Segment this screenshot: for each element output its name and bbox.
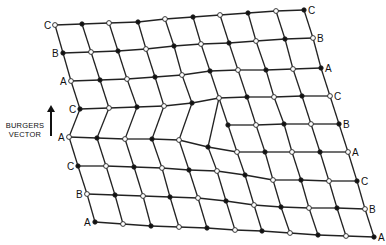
- left-plane-label: C: [44, 20, 51, 31]
- left-plane-label: A: [58, 132, 65, 143]
- bond-line: [256, 41, 266, 70]
- filled-atom-icon: [78, 107, 82, 111]
- bond-line: [109, 107, 137, 108]
- bond-line: [245, 175, 254, 205]
- bond-line: [248, 11, 276, 13]
- bond-line: [118, 49, 146, 51]
- bond-line: [274, 97, 284, 124]
- bond-line: [179, 140, 189, 170]
- bond-line: [248, 13, 256, 41]
- bond-line: [238, 70, 247, 97]
- bond-line: [134, 167, 162, 168]
- bond-line: [256, 124, 284, 125]
- bond-line: [301, 180, 309, 208]
- filled-atom-icon: [319, 66, 323, 70]
- bond-line: [151, 226, 179, 227]
- bond-line: [115, 195, 143, 196]
- bond-line: [146, 49, 155, 77]
- left-plane-label: A: [60, 76, 67, 87]
- bond-line: [266, 70, 274, 97]
- bond-line: [100, 80, 109, 108]
- bond-line: [329, 181, 337, 208]
- bond-line: [301, 180, 329, 181]
- open-atom-icon: [69, 79, 74, 84]
- open-atom-icon: [233, 228, 238, 233]
- filled-atom-icon: [372, 235, 376, 239]
- filled-atom-icon: [260, 229, 264, 233]
- filled-atom-icon: [318, 150, 322, 154]
- filled-atom-icon: [80, 22, 84, 26]
- open-atom-icon: [196, 196, 201, 201]
- filled-atom-icon: [263, 150, 267, 154]
- bond-line: [170, 197, 198, 198]
- bond-line: [219, 97, 247, 98]
- bond-line: [162, 168, 189, 170]
- bond-line: [82, 24, 91, 52]
- bond-line: [265, 152, 273, 180]
- right-plane-label: B: [317, 33, 324, 44]
- open-atom-icon: [89, 50, 94, 55]
- filled-atom-icon: [172, 44, 176, 48]
- left-plane-label: C: [67, 161, 74, 172]
- open-atom-icon: [125, 77, 130, 82]
- bond-line: [87, 194, 115, 195]
- bond-line: [97, 138, 106, 166]
- open-atom-icon: [236, 68, 241, 73]
- filled-atom-icon: [116, 49, 120, 53]
- bond-line: [293, 69, 302, 96]
- bond-line: [123, 224, 151, 226]
- open-atom-icon: [144, 47, 149, 52]
- filled-atom-icon: [227, 41, 231, 45]
- bond-line: [245, 175, 273, 180]
- filled-atom-icon: [208, 69, 212, 73]
- bond-line: [256, 39, 285, 41]
- open-atom-icon: [271, 178, 276, 183]
- bond-line: [146, 46, 174, 49]
- bond-line: [276, 10, 304, 11]
- bond-line: [192, 98, 219, 103]
- bond-line: [320, 152, 329, 181]
- open-atom-icon: [141, 194, 146, 199]
- bond-line: [229, 43, 238, 70]
- bond-line: [235, 230, 262, 231]
- left-plane-label: C: [69, 104, 76, 115]
- open-atom-icon: [160, 166, 165, 171]
- filled-atom-icon: [132, 165, 136, 169]
- bond-line: [182, 71, 210, 75]
- left-plane-label: B: [76, 189, 83, 200]
- bond-line: [152, 139, 162, 168]
- bond-line: [152, 106, 164, 139]
- bond-line: [182, 75, 192, 103]
- bond-line: [109, 23, 118, 51]
- bond-line: [228, 125, 237, 152]
- bond-line: [143, 196, 170, 197]
- bond-line: [164, 103, 192, 106]
- filled-atom-icon: [335, 206, 339, 210]
- open-atom-icon: [291, 67, 296, 72]
- bond-line: [201, 44, 210, 71]
- open-atom-icon: [162, 104, 167, 109]
- bond-line: [290, 233, 318, 235]
- bond-line: [127, 79, 137, 107]
- bond-line: [226, 201, 235, 230]
- open-atom-icon: [252, 203, 257, 208]
- bond-line: [143, 196, 151, 226]
- right-plane-label: B: [369, 204, 376, 215]
- open-atom-icon: [123, 137, 128, 142]
- filled-atom-icon: [187, 168, 191, 172]
- open-atom-icon: [307, 206, 312, 211]
- filled-atom-icon: [282, 122, 286, 126]
- bond-line: [165, 19, 174, 46]
- bond-line: [219, 98, 228, 125]
- bond-line: [262, 231, 290, 233]
- open-atom-icon: [107, 106, 112, 111]
- open-atom-icon: [272, 95, 277, 100]
- bond-line: [208, 147, 217, 171]
- filled-atom-icon: [243, 173, 247, 177]
- open-atom-icon: [199, 42, 204, 47]
- bond-line: [95, 222, 123, 224]
- filled-atom-icon: [302, 8, 306, 12]
- bond-line: [82, 23, 109, 24]
- open-atom-icon: [217, 96, 222, 101]
- bond-line: [256, 125, 265, 152]
